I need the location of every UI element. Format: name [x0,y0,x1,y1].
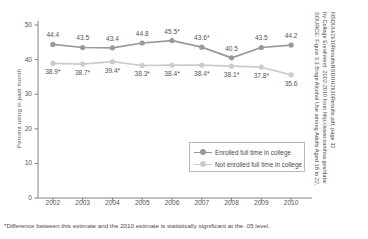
legend-item-not-enrolled: Not enrolled full time in college [194,158,300,170]
data-label: 43.5 [68,34,98,41]
chart-axes [35,21,313,202]
data-label: 38.9* [38,68,68,75]
data-label: 44.4 [38,31,68,38]
legend-marker-not-enrolled-icon [194,160,212,168]
source-line-1: SOURCE: Figure 3.3 Binge Alcohol Use amo… [314,12,320,186]
data-label: 43.4 [97,35,127,42]
data-label: 43.5 [246,34,276,41]
data-label: 38.3* [127,70,157,77]
data-label: 38.7* [68,69,98,76]
data-label: 38.1* [217,71,247,78]
chart-legend: Enrolled full time in college Not enroll… [189,142,305,172]
data-label: 37.8* [246,72,276,79]
data-label: 44.2 [276,32,306,39]
data-label: 39.4* [97,67,127,74]
data-label: 38.4* [157,70,187,77]
source-line-3: NSDUH/2k10ResultsNSDUH2k10Results.pdf, p… [330,12,336,148]
legend-item-enrolled: Enrolled full time in college [194,146,300,158]
legend-label-enrolled: Enrolled full time in college [215,149,291,156]
legend-label-not-enrolled: Not enrolled full time in college [215,161,302,168]
data-label: 43.6* [187,34,217,41]
data-label: 40.5 [217,45,247,52]
binge-alcohol-use-line-chart: Percent using in past month 01020304050 … [0,0,368,239]
data-label: 45.5* [157,28,187,35]
legend-marker-enrolled-icon [194,148,212,156]
data-label: 35.6 [276,80,306,87]
source-citation: SOURCE: Figure 3.3 Binge Alcohol Use amo… [310,8,366,223]
data-label: 38.4* [187,70,217,77]
chart-footnote: *Difference between this estimate and th… [4,222,270,229]
data-label: 44.8 [127,30,157,37]
source-line-2: by College Enrollment: 2002-2010 from ht… [322,12,328,184]
